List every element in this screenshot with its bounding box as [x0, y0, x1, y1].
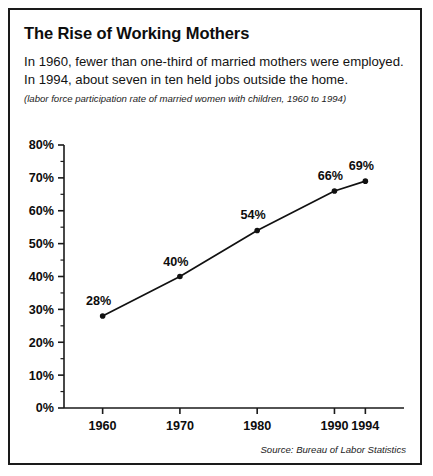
x-axis-tick-label: 1970: [166, 419, 194, 433]
data-point-labels: 28%40%54%66%69%: [86, 159, 374, 308]
data-point-value-label: 40%: [163, 255, 188, 269]
data-point-value-label: 69%: [349, 159, 374, 173]
chart-card: The Rise of Working Mothers In 1960, few…: [8, 8, 422, 465]
data-point-value-label: 54%: [241, 208, 266, 222]
y-axis-tick-label: 0%: [36, 401, 54, 415]
data-point: [363, 178, 369, 184]
x-axis-tick-label: 1990: [320, 419, 348, 433]
data-series: [100, 178, 368, 318]
data-point: [100, 313, 106, 319]
source-attribution: Source: Bureau of Labor Statistics: [260, 444, 406, 455]
y-axis-tick-label: 50%: [29, 237, 54, 251]
y-axis-tick-label: 20%: [29, 336, 54, 350]
y-axis-tick-label: 10%: [29, 369, 54, 383]
y-axis-tick-label: 70%: [29, 171, 54, 185]
y-axis: 0%10%20%30%40%50%60%70%80%: [29, 138, 64, 415]
line-chart: 0%10%20%30%40%50%60%70%80% 1960197019801…: [10, 10, 420, 463]
x-axis-tick-label: 1994: [351, 419, 379, 433]
y-axis-tick-label: 30%: [29, 303, 54, 317]
x-axis-tick-label: 1980: [243, 419, 271, 433]
series-line: [103, 181, 366, 316]
data-point: [254, 228, 260, 234]
data-point-value-label: 66%: [318, 169, 343, 183]
y-axis-tick-label: 40%: [29, 270, 54, 284]
data-point: [177, 274, 183, 280]
y-axis-tick-label: 80%: [29, 138, 54, 152]
y-axis-tick-label: 60%: [29, 204, 54, 218]
data-point: [332, 188, 338, 194]
x-axis: 19601970198019901994: [64, 408, 404, 433]
data-point-value-label: 28%: [86, 294, 111, 308]
x-axis-tick-label: 1960: [89, 419, 117, 433]
